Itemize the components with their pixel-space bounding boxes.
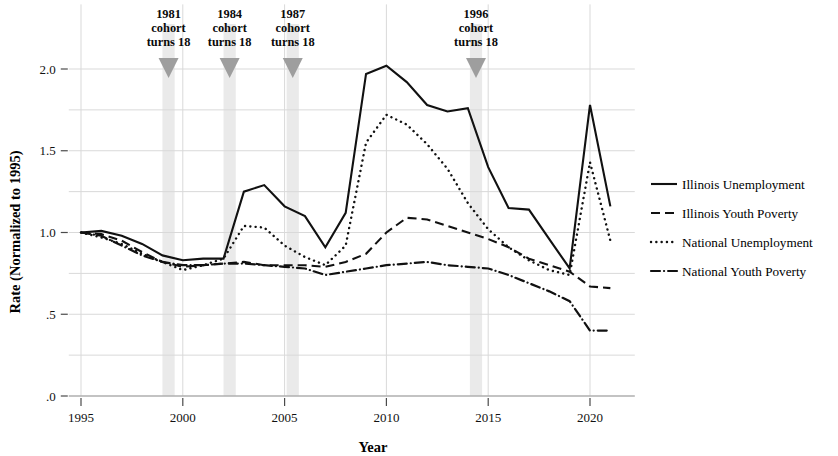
y-tick-label-0.5: .5	[46, 307, 56, 322]
cohort-annotation-1996-line3: turns 18	[454, 35, 498, 49]
x-axis-title: Year	[359, 439, 389, 455]
legend-label-illinois-youth-poverty[interactable]: Illinois Youth Poverty	[682, 206, 799, 221]
y-tick-label-2: 2.0	[40, 62, 56, 77]
chart-background	[0, 0, 838, 456]
y-axis-title: Rate (Normalized to 1995)	[7, 150, 24, 313]
y-tick-label-1: 1.0	[40, 225, 56, 240]
cohort-annotation-1987-year: 1987	[280, 7, 305, 21]
cohort-annotation-1984-line2: cohort	[212, 21, 247, 35]
cohort-annotation-1987-line3: turns 18	[271, 35, 315, 49]
y-tick-label-0: .0	[46, 389, 56, 404]
x-tick-label-2020: 2020	[577, 410, 603, 425]
cohort-band-1981	[162, 24, 174, 396]
chart-figure: 199520002005201020152020 .0.51.01.52.0 1…	[0, 0, 838, 456]
cohort-annotation-1996-line2: cohort	[459, 21, 494, 35]
cohort-annotation-1984-line3: turns 18	[208, 35, 252, 49]
x-tick-label-2015: 2015	[475, 410, 501, 425]
cohort-annotation-1984-year: 1984	[217, 7, 242, 21]
cohort-band-1984	[224, 24, 236, 396]
cohort-annotation-1987-line2: cohort	[276, 21, 311, 35]
legend-label-national-unemployment[interactable]: National Unemployment	[682, 235, 813, 250]
x-tick-label-2005: 2005	[272, 410, 298, 425]
legend-label-illinois-unemployment[interactable]: Illinois Unemployment	[682, 177, 805, 192]
x-tick-label-2000: 2000	[170, 410, 196, 425]
cohort-band-1996	[470, 24, 482, 396]
x-tick-label-1995: 1995	[68, 410, 94, 425]
y-tick-label-1.5: 1.5	[40, 143, 56, 158]
cohort-annotation-1981-line3: turns 18	[147, 35, 191, 49]
x-tick-label-2010: 2010	[373, 410, 399, 425]
cohort-annotation-1981-line2: cohort	[151, 21, 186, 35]
cohort-annotation-1981-year: 1981	[156, 7, 181, 21]
line-chart: 199520002005201020152020 .0.51.01.52.0 1…	[0, 0, 838, 456]
cohort-annotation-1996-year: 1996	[464, 7, 489, 21]
legend-label-national-youth-poverty[interactable]: National Youth Poverty	[682, 264, 807, 279]
